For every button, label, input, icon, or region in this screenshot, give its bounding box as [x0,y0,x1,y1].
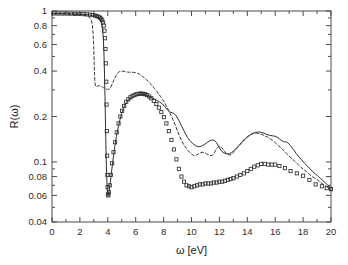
x-tick-label: 10 [186,226,197,237]
x-axis-title: ω [eV] [176,244,207,256]
y-tick-label: 0.2 [34,111,47,122]
x-tick-label: 18 [298,226,309,237]
y-tick-label: 0.8 [34,20,47,31]
x-tick-label: 12 [214,226,225,237]
x-tick-label: 4 [105,226,110,237]
x-tick-label: 16 [270,226,281,237]
y-tick-label: 0.08 [29,171,48,182]
reflectivity-figure: 02468101214161820 0.040.060.080.10.20.40… [0,0,348,265]
y-tick-label: 0.04 [29,216,48,227]
x-tick-label: 14 [242,226,253,237]
y-axis-title: R(ω) [8,105,20,129]
x-tick-label: 8 [161,226,166,237]
y-tick-label: 0.4 [34,65,47,76]
x-tick-label: 0 [49,226,54,237]
y-tick-label: 0.1 [34,156,47,167]
chart-canvas: 02468101214161820 0.040.060.080.10.20.40… [0,0,348,265]
x-tick-label: 20 [326,226,337,237]
y-tick-label: 1 [42,5,47,16]
y-tick-label: 0.06 [29,190,48,201]
x-tick-label: 2 [77,226,82,237]
y-tick-label: 0.6 [34,39,47,50]
x-tick-label: 6 [133,226,138,237]
